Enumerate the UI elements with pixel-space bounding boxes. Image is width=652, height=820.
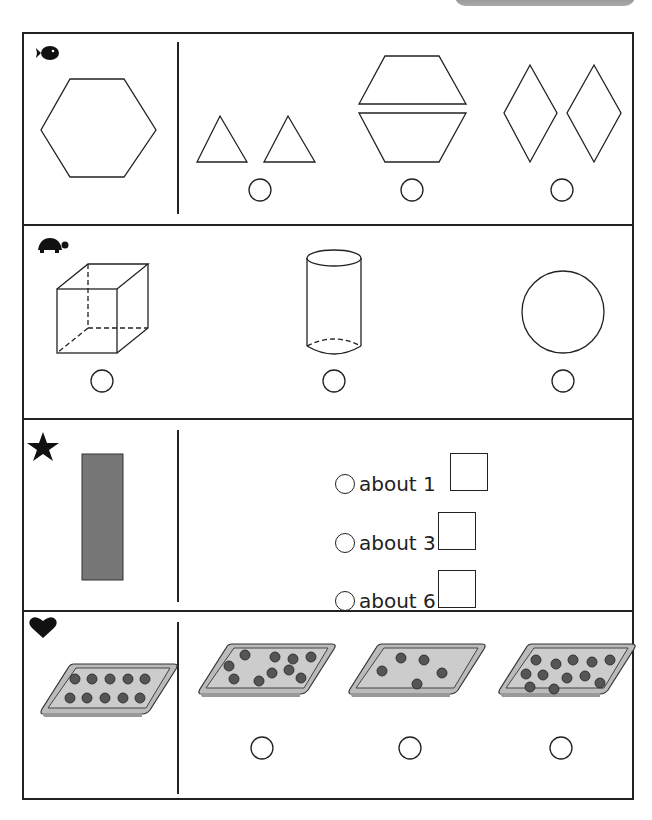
answer-label: about 6 bbox=[359, 589, 436, 613]
answer-bubble[interactable] bbox=[335, 533, 355, 553]
answer-bubble-triangles[interactable] bbox=[249, 179, 271, 201]
turtle-icon bbox=[38, 238, 69, 253]
star-icon bbox=[27, 432, 59, 461]
tray-option-5-dots bbox=[349, 644, 485, 697]
footer-text bbox=[30, 806, 630, 814]
tray-option-10-dots bbox=[199, 644, 335, 697]
question-fish-graphics bbox=[24, 34, 634, 224]
unit-square-icon bbox=[438, 570, 476, 608]
answer-bubble[interactable] bbox=[335, 474, 355, 494]
answer-bubble-circle[interactable] bbox=[552, 370, 574, 392]
question-turtle bbox=[24, 226, 632, 420]
fish-icon bbox=[36, 46, 59, 60]
question-fish bbox=[24, 34, 632, 226]
answer-bubble-tray-12[interactable] bbox=[550, 737, 572, 759]
question-star: about 1 about 3 about 6 bbox=[24, 420, 632, 612]
prompt-tray-10-dots bbox=[41, 664, 177, 717]
answer-option-about-3[interactable]: about 3 bbox=[335, 524, 476, 562]
answer-label: about 3 bbox=[359, 531, 436, 555]
circle-shape bbox=[522, 271, 604, 353]
answer-option-about-1[interactable]: about 1 bbox=[335, 465, 488, 503]
question-heart bbox=[24, 612, 632, 800]
unit-square-icon bbox=[438, 512, 476, 550]
cube-shape bbox=[57, 264, 148, 353]
answer-bubble-rhombuses[interactable] bbox=[551, 179, 573, 201]
answer-bubble-tray-10[interactable] bbox=[251, 737, 273, 759]
rhombuses-option bbox=[504, 65, 621, 162]
question-heart-graphics bbox=[24, 612, 634, 800]
question-star-graphics bbox=[24, 420, 184, 610]
unit-square-icon bbox=[450, 453, 488, 491]
gray-rectangle-shape bbox=[82, 454, 123, 580]
triangles-option bbox=[197, 116, 315, 162]
answer-label: about 1 bbox=[359, 472, 436, 496]
answer-bubble[interactable] bbox=[335, 591, 355, 611]
tray-option-12-dots bbox=[499, 644, 635, 697]
answer-bubble-cylinder[interactable] bbox=[323, 370, 345, 392]
answer-bubble-tray-5[interactable] bbox=[399, 737, 421, 759]
hexagon-shape bbox=[41, 79, 156, 177]
heart-icon bbox=[29, 617, 56, 638]
answer-bubble-trapezoids[interactable] bbox=[401, 179, 423, 201]
worksheet-frame: about 1 about 3 about 6 bbox=[22, 32, 634, 800]
header-tab bbox=[455, 0, 635, 6]
cylinder-shape bbox=[307, 250, 361, 354]
answer-bubble-cube[interactable] bbox=[91, 370, 113, 392]
question-turtle-graphics bbox=[24, 226, 634, 418]
trapezoids-option bbox=[359, 56, 466, 162]
